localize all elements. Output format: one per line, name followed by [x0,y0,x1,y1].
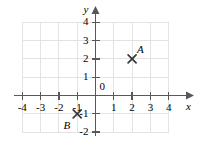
x-axis-arrow-icon [186,92,194,100]
y-axis-name-label: y [84,4,89,15]
x-axis-tick-label: 3 [148,102,154,113]
x-axis-tick-label: 4 [166,102,172,113]
y-axis-tick-label: 1 [83,71,89,82]
coordinate-plane-svg [0,0,201,145]
y-axis-tick-label: 4 [83,16,89,27]
x-axis-name-label: x [186,101,191,112]
x-axis-tick-label: 2 [129,102,135,113]
x-axis-tick-label: 1 [111,102,117,113]
x-axis-tick-label: -2 [54,102,63,113]
y-axis-arrow-icon [92,6,100,14]
y-axis-tick-label: -1 [79,108,88,119]
x-axis-tick-label: -4 [18,102,27,113]
origin-label: 0 [100,81,106,92]
point-label-a: A [137,44,144,55]
x-axis-tick-label: -3 [36,102,45,113]
y-axis-tick-label: 3 [83,35,89,46]
y-axis-tick-label: -2 [79,126,88,137]
point-label-b: B [63,120,70,131]
y-axis-tick-label: 2 [83,53,89,64]
coordinate-plane-figure: -4-3-2-112344321-1-20xyAB [0,0,201,145]
